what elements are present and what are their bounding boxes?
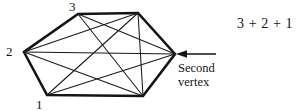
vertex-label-1: 1 [36,98,43,111]
sum-formula: 3 + 2 + 1 [237,16,293,32]
figure-canvas: 3 2 1 Second vertex 3 + 2 + 1 [0,0,297,111]
annotation-line-2: vertex [178,75,215,89]
hexagon-path [24,13,175,96]
diagonal-topright-to-bottomright [138,13,143,96]
vertex-label-3: 3 [69,0,76,13]
vertex-label-2: 2 [6,45,13,58]
second-vertex-arrow [176,50,216,58]
arrow-head [176,50,187,58]
diagonal-topleft-to-right [78,14,175,54]
annotation-line-1: Second [178,61,215,75]
diagonal-left-to-topright [24,13,138,52]
hexagon-outline [24,13,175,96]
diagonal-left-to-right [24,52,175,54]
second-vertex-annotation: Second vertex [178,61,215,89]
diagonal-bottomleft-to-right [47,54,175,95]
